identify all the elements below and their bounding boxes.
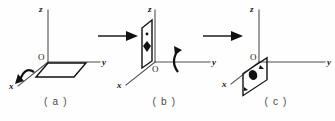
origin-label: O: [250, 52, 257, 62]
panel-a: z y x O ( a ): [0, 0, 112, 121]
panel-b: z y x O ( b ): [112, 0, 217, 121]
panel-c: z y x O ( c ): [217, 0, 335, 121]
z-axis-label: z: [147, 4, 152, 14]
caption-a: ( a ): [0, 96, 112, 107]
y-axis-label: y: [101, 57, 107, 67]
plane-arrowhead-marker: [143, 41, 151, 52]
z-axis-label: z: [38, 4, 43, 14]
rotation-about-y-axis-arrowhead: [174, 46, 182, 55]
x-axis-label: x: [116, 80, 122, 90]
x-axis-label: x: [221, 79, 227, 89]
panel-a-diagram: z y x O: [0, 0, 112, 96]
plane-bottom-arrowhead-marker: [244, 87, 248, 91]
panel-b-diagram: z y x O: [112, 0, 217, 96]
z-axis-label: z: [249, 4, 254, 14]
figure-root: z y x O ( a ): [0, 0, 335, 121]
panel-c-diagram: z y x O: [217, 0, 335, 96]
plane-dot-marker: [146, 33, 149, 36]
origin-label: O: [152, 64, 159, 74]
x-axis: [126, 62, 155, 85]
origin-label: O: [38, 52, 45, 62]
caption-c: ( c ): [217, 96, 335, 107]
plane-blob-marker: [247, 69, 258, 81]
y-axis-label: y: [326, 57, 332, 67]
caption-b: ( b ): [112, 96, 217, 107]
plane-top-arrowhead-marker: [259, 65, 264, 69]
x-axis-label: x: [8, 81, 14, 91]
